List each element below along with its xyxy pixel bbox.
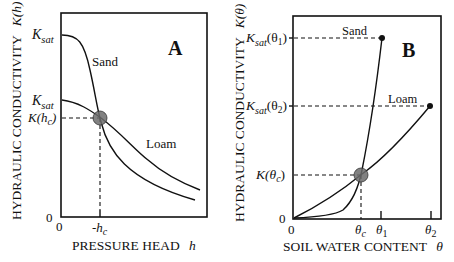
sand-label-a: Sand (92, 54, 119, 69)
theta-1-label: θ1 (376, 222, 387, 239)
panel-a-letter: A (168, 37, 183, 59)
panel-a: HYDRAULIC CONDUCTIVITY K(h) A Ksat Ksat … (9, 1, 207, 253)
panel-b-x-axis-title: SOIL WATER CONTENT θ (283, 239, 443, 254)
loam-label-a: Loam (146, 136, 176, 151)
ksat-theta2-label: Ksat(θ2) (245, 98, 287, 116)
theta-c-label: θc (355, 222, 366, 239)
sand-curve-b (294, 38, 382, 218)
y-axis-symbol: K(h) (9, 1, 24, 27)
loam-curve-a (62, 100, 200, 190)
panel-b-x-zero: 0 (288, 222, 295, 237)
panel-b-letter: B (402, 39, 415, 61)
panel-a-x-axis-title: PRESSURE HEAD h (72, 238, 196, 253)
ksat-loam-label: Ksat (31, 93, 55, 111)
panel-b: HYDRAULIC CONDUCTIVITY K(θ) B Ksat(θ1) K… (232, 3, 443, 254)
sand-curve-a (62, 35, 195, 200)
ksat-theta1-label: Ksat(θ1) (245, 30, 287, 48)
panel-b-y-axis-title: HYDRAULIC CONDUCTIVITY K(θ) (232, 3, 247, 222)
panel-a-x-zero: 0 (56, 219, 63, 234)
theta-2-label: θ2 (425, 222, 436, 239)
loam-curve-b (294, 106, 430, 218)
neg-hc-label: -hc (92, 220, 108, 237)
panel-a-frame (61, 13, 207, 217)
panel-a-y-axis-title: HYDRAULIC CONDUCTIVITY K(h) (9, 1, 24, 220)
loam-label-b: Loam (388, 92, 417, 106)
panel-b-y-zero: 0 (279, 211, 286, 226)
k-thetac-label: K(θc) (255, 167, 285, 184)
sand-endpoint (379, 35, 385, 41)
k-hc-label: K(hc) (27, 110, 56, 127)
crossover-marker-b (354, 168, 368, 182)
panel-b-frame (293, 16, 441, 219)
ksat-sand-label: Ksat (31, 27, 55, 45)
crossover-marker-a (93, 111, 107, 125)
panel-a-y-zero: 0 (46, 210, 53, 225)
y-axis-label: HYDRAULIC CONDUCTIVITY (9, 35, 24, 220)
loam-endpoint (427, 103, 433, 109)
sand-label-b: Sand (342, 24, 368, 38)
